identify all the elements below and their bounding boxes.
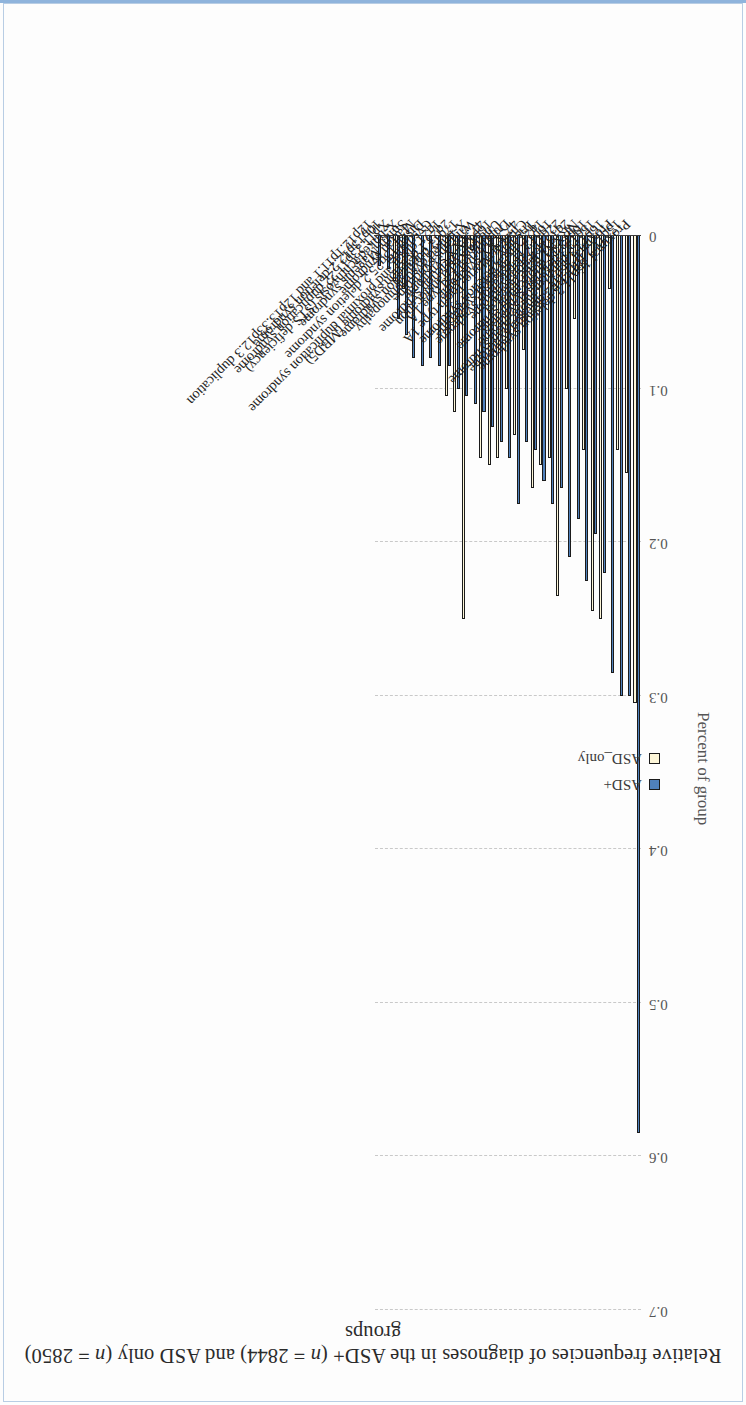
legend-label-asd-plus: ASD+ — [604, 776, 642, 793]
legend-swatch-asd-only — [649, 753, 660, 764]
chart-legend: ASD+ ASD_only — [578, 741, 660, 793]
legend-label-asd-only: ASD_only — [578, 750, 642, 767]
legend-swatch-asd-plus — [649, 779, 660, 790]
figure-page: Relative frequencies of diagnoses in the… — [0, 0, 746, 1405]
rotated-figure-container: Relative frequencies of diagnoses in the… — [0, 0, 746, 1405]
legend-item-asd-only: ASD_only — [578, 750, 660, 767]
category-axis-labels: Proximal 16p11.2 deletion syndrome15q11.… — [0, 0, 746, 1405]
legend-item-asd-plus: ASD+ — [578, 776, 660, 793]
